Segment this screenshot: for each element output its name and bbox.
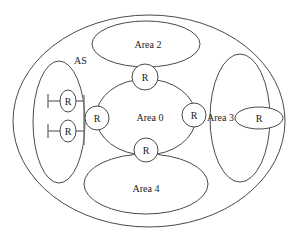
ospf-as-diagram: AS Area 2 Area 4 Area 0 R R R R R R Area… bbox=[0, 0, 294, 237]
router-left-stub-1-label: R bbox=[65, 96, 72, 107]
router-bottom-abr-label: R bbox=[143, 145, 150, 156]
left-stub-area bbox=[33, 61, 85, 183]
as-label: AS bbox=[74, 55, 87, 66]
router-left-stub-2-label: R bbox=[65, 126, 72, 137]
router-left-abr-label: R bbox=[94, 113, 101, 124]
area-4-label: Area 4 bbox=[133, 183, 160, 194]
router-right-abr-label: R bbox=[191, 110, 198, 121]
area-3-label: Area 3 bbox=[207, 112, 234, 123]
router-top-abr-label: R bbox=[142, 72, 149, 83]
router-area3-internal-label: R bbox=[256, 113, 263, 124]
area-2-label: Area 2 bbox=[135, 39, 162, 50]
area-0-label: Area 0 bbox=[137, 112, 164, 123]
